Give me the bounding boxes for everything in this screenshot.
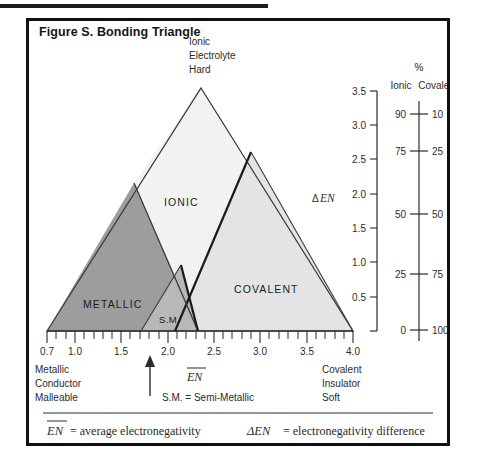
triangle-regions [47, 88, 353, 331]
y-tick-label-3: 2.0 [352, 189, 366, 200]
y-tick-label-0: 0.5 [352, 292, 366, 303]
region-label-metallic: METALLIC [83, 298, 142, 310]
percent-ionic-4: 0 [400, 325, 406, 336]
percent-ionic-0: 90 [395, 109, 407, 120]
sm-note: S.M. = Semi-Metallic [162, 392, 254, 403]
y-tick-label-6: 3.5 [352, 86, 366, 97]
percent-ionic-1: 75 [395, 146, 407, 157]
x-axis-title: EN [186, 370, 203, 384]
x-tick-label-3: 2.0 [161, 346, 175, 357]
region-label-ionic: IONIC [164, 196, 199, 208]
bonding-triangle-svg: Ionic Electrolyte Hard IONIC COVALENT ME… [29, 21, 447, 443]
apex-label-group: Ionic Electrolyte Hard [189, 36, 236, 75]
figure-root: Figure S. Bonding Triangle [0, 0, 478, 459]
percent-covalent-0: 10 [432, 109, 444, 120]
y-tick-label-1: 1.0 [352, 257, 366, 268]
footer-left-symbol: EN [46, 424, 64, 438]
x-tick-label-5: 3.0 [253, 346, 267, 357]
percent-covalent-1: 25 [432, 146, 444, 157]
percent-covalent-3: 75 [432, 269, 444, 280]
x-axis-title-group: EN [186, 368, 206, 384]
apex-label-2: Hard [189, 64, 211, 75]
x-tick-label-4: 2.5 [207, 346, 221, 357]
top-divider-rule [0, 4, 268, 8]
y-axis-tick-labels: 3.5 3.0 2.5 2.0 1.5 1.0 0.5 [352, 86, 366, 303]
right-corner-label-0: Covalent [322, 364, 362, 375]
percent-covalent-4: 100 [432, 325, 447, 336]
x-tick-label-6: 3.5 [300, 346, 314, 357]
footer: EN = average electronegativity ΔEN = ele… [43, 413, 433, 438]
percent-ionic-3: 25 [395, 269, 407, 280]
left-corner-label-group: Metallic Conductor Malleable [35, 364, 82, 403]
right-corner-label-2: Soft [322, 392, 340, 403]
x-axis: 0.7 1.0 1.5 2.0 2.5 3.0 3.5 4.0 EN [40, 331, 360, 384]
percent-header: % [415, 62, 424, 73]
x-axis-major-ticks [47, 331, 353, 343]
x-tick-label-1: 1.0 [68, 346, 82, 357]
percent-left-header: Ionic [390, 80, 411, 91]
figure-frame: Figure S. Bonding Triangle [26, 18, 450, 446]
percent-ionic-2: 50 [395, 209, 407, 220]
right-corner-label-1: Insulator [322, 378, 361, 389]
percent-right-header: Covalent [418, 80, 447, 91]
x-axis-tick-labels: 0.7 1.0 1.5 2.0 2.5 3.0 3.5 4.0 [40, 346, 360, 357]
y-axis-ticks [370, 125, 377, 297]
percent-scale: % Ionic Covalent 90 75 50 25 0 [390, 62, 447, 341]
y-tick-label-2: 1.5 [352, 223, 366, 234]
y-axis-title-group: Δ EN [312, 192, 336, 204]
percent-left-values: 90 75 50 25 0 [395, 109, 407, 336]
y-axis-title-delta: Δ [312, 193, 319, 204]
footer-right-text: = electronegativity difference [283, 424, 425, 438]
region-label-semi-metallic: S.M. [159, 314, 180, 325]
x-tick-label-2: 1.5 [114, 346, 128, 357]
apex-label-1: Electrolyte [189, 50, 236, 61]
y-tick-label-4: 2.5 [352, 154, 366, 165]
right-corner-label-group: Covalent Insulator Soft [322, 364, 362, 403]
apex-label-0: Ionic [189, 36, 210, 47]
region-label-covalent: COVALENT [234, 283, 299, 295]
sm-arrow-group [145, 355, 155, 396]
left-corner-label-2: Malleable [35, 392, 78, 403]
x-axis-minor-ticks [56, 331, 344, 339]
x-tick-label-7: 4.0 [346, 346, 360, 357]
y-axis-title: EN [319, 192, 336, 204]
y-tick-label-5: 3.0 [352, 120, 366, 131]
sm-arrow-head [145, 355, 155, 367]
footer-left-text: = average electronegativity [70, 424, 201, 438]
left-corner-label-0: Metallic [35, 364, 69, 375]
left-corner-label-1: Conductor [35, 378, 82, 389]
footer-right-symbol: ΔEN [246, 424, 271, 438]
x-tick-label-0: 0.7 [40, 346, 54, 357]
percent-covalent-2: 50 [432, 209, 444, 220]
percent-right-values: 10 25 50 75 100 [432, 109, 447, 336]
